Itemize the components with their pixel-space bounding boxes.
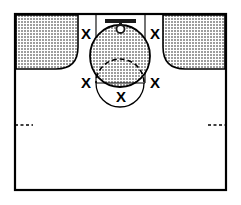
rim-icon (117, 25, 125, 33)
backboard (105, 19, 136, 23)
court-svg: X X X X X (0, 0, 241, 205)
key-shaded-zone (90, 25, 150, 87)
basketball-court-diagram: X X X X X (0, 0, 241, 205)
left-corner-shaded-zone (16, 15, 78, 69)
right-corner-shaded-zone (163, 15, 225, 69)
